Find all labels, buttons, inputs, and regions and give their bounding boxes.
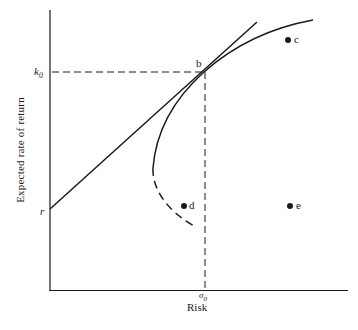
capital-market-line — [50, 22, 257, 209]
point-e — [287, 203, 293, 209]
y-axis-label: Expected rate of return — [14, 97, 26, 203]
point-c-label: c — [294, 34, 299, 45]
sigma0-subscript: 0 — [203, 295, 207, 303]
point-c — [285, 37, 291, 43]
inefficient-frontier-curve — [153, 168, 194, 226]
sigma0-tick-label: σ0 — [199, 291, 207, 303]
chart-canvas — [0, 0, 358, 330]
point-d-label: d — [189, 200, 195, 211]
k0-subscript: 0 — [39, 71, 43, 80]
point-d — [181, 203, 187, 209]
point-e-label: e — [296, 200, 301, 211]
point-b-label: b — [196, 58, 202, 69]
r-tick-label: r — [40, 206, 44, 217]
k0-tick-label: k0 — [34, 66, 43, 80]
x-axis-label: Risk — [187, 302, 207, 313]
